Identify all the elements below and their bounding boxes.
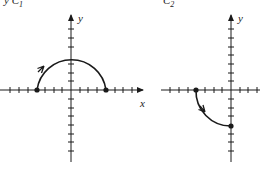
c1-y-axis-label: y [78, 13, 83, 24]
graph-c2 [161, 15, 260, 162]
diagram-canvas [0, 0, 260, 171]
c2-y-axis-label: y [238, 13, 243, 24]
c1-direction-arrow-icon [38, 66, 45, 73]
c2-start-point [193, 87, 198, 92]
c1-x-axis-label: x [140, 98, 145, 109]
c1-start-point [34, 87, 39, 92]
c1-end-point [103, 87, 108, 92]
graph-c1 [0, 15, 143, 162]
c2-end-point [228, 123, 233, 128]
